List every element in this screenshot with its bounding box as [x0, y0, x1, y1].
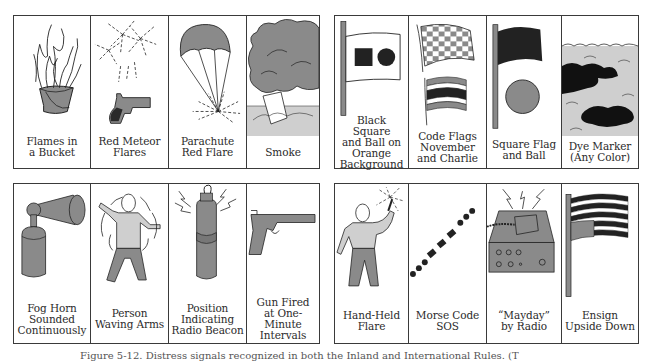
- panel-parachute-red-flare: Parachute Red Flare: [169, 16, 247, 168]
- panel-dye-marker: Dye Marker (Any Color): [562, 16, 638, 168]
- panel-label: Morse Code SOS: [409, 299, 486, 343]
- panel-label: Position Indicating Radio Beacon: [169, 295, 246, 343]
- panel-label: Flames in a Bucket: [14, 126, 90, 168]
- panel-label: Parachute Red Flare: [169, 126, 246, 168]
- panel-gun-fired: Gun Fired at One-Minute Intervals: [247, 184, 319, 343]
- flag-and-ball-icon: [487, 16, 561, 132]
- panel-label: Red Meteor Flares: [91, 126, 168, 168]
- waving-person-icon: [91, 184, 168, 295]
- panel-code-flags-november-charlie: Code Flags November and Charlie: [409, 16, 487, 168]
- panel-label: Person Waving Arms: [91, 295, 168, 343]
- signal-group-top-right: Black Square and Ball on Orange Backgrou…: [334, 15, 639, 169]
- dye-marker-icon: [562, 16, 638, 136]
- panel-label: Code Flags November and Charlie: [409, 126, 486, 168]
- panel-person-waving-arms: Person Waving Arms: [91, 184, 169, 343]
- signal-group-top-left: Flames in a Bucket Red Meteor Flares: [13, 15, 320, 169]
- panel-label: Ensign Upside Down: [562, 299, 638, 343]
- signal-group-bottom-left: Fog Horn Sounded Continuously Person Wav…: [13, 183, 320, 344]
- signal-group-bottom-right: Hand-Held Flare Morse Code SOS: [334, 183, 639, 344]
- panel-square-flag-and-ball: Square Flag and Ball: [487, 16, 562, 168]
- panel-label: Gun Fired at One-Minute Intervals: [247, 295, 319, 343]
- figure-caption: Figure 5-12. Distress signals recognized…: [80, 350, 519, 362]
- panel-fog-horn: Fog Horn Sounded Continuously: [14, 184, 91, 343]
- radio-beacon-icon: [169, 184, 246, 295]
- fog-horn-icon: [14, 184, 90, 295]
- panel-red-meteor-flares: Red Meteor Flares: [91, 16, 169, 168]
- flare-pistol-icon: [91, 16, 168, 126]
- panel-label: Smoke: [247, 136, 319, 168]
- panel-label: Black Square and Ball on Orange Backgrou…: [335, 116, 408, 168]
- smoke-canister-icon: [247, 16, 319, 136]
- panel-label: “Mayday” by Radio: [487, 299, 561, 343]
- panel-ensign-upside-down: Ensign Upside Down: [562, 184, 638, 343]
- code-flags-icon: [409, 16, 486, 126]
- panel-radio-beacon: Position Indicating Radio Beacon: [169, 184, 247, 343]
- square-ball-flag-icon: [335, 16, 408, 116]
- flames-bucket-icon: [14, 16, 90, 126]
- panel-smoke: Smoke: [247, 16, 319, 168]
- radio-set-icon: [487, 184, 561, 299]
- parachute-flare-icon: [169, 16, 246, 126]
- morse-sos-icon: [409, 184, 486, 299]
- upside-down-ensign-icon: [562, 184, 638, 299]
- panel-label: Fog Horn Sounded Continuously: [14, 295, 90, 343]
- panel-mayday-by-radio: “Mayday” by Radio: [487, 184, 562, 343]
- panel-black-square-and-ball: Black Square and Ball on Orange Backgrou…: [335, 16, 409, 168]
- panel-morse-code-sos: Morse Code SOS: [409, 184, 487, 343]
- panel-label: Hand-Held Flare: [335, 299, 408, 343]
- hand-held-flare-icon: [335, 184, 408, 299]
- panel-flames-in-bucket: Flames in a Bucket: [14, 16, 91, 168]
- gun-icon: [247, 184, 319, 295]
- panel-label: Square Flag and Ball: [487, 132, 561, 168]
- panel-label: Dye Marker (Any Color): [562, 136, 638, 168]
- panel-hand-held-flare: Hand-Held Flare: [335, 184, 409, 343]
